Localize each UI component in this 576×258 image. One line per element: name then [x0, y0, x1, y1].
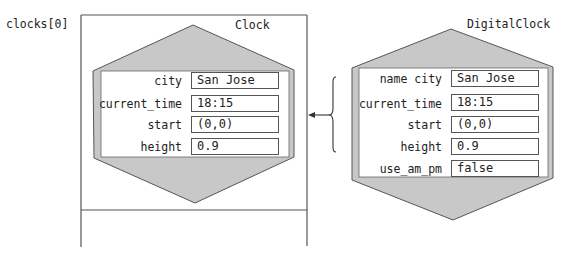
clock-class-name: Clock: [235, 18, 270, 32]
digitalclock-class-name: DigitalClock: [467, 17, 550, 31]
field-value: 0.9: [451, 138, 539, 155]
field-name: current_time: [359, 97, 442, 111]
field-value: 0.9: [191, 138, 279, 155]
field-name: height: [400, 140, 442, 154]
field-name: height: [140, 140, 182, 154]
field-name: name city: [380, 72, 442, 86]
field-value: 18:15: [191, 95, 279, 112]
brace-icon: [330, 77, 336, 152]
field-value: San Jose: [191, 72, 279, 89]
variable-label: clocks[0]: [6, 17, 68, 31]
field-name: current_time: [99, 97, 182, 111]
field-value: San Jose: [451, 70, 539, 87]
field-name: start: [147, 118, 182, 132]
field-value: 18:15: [451, 94, 539, 111]
field-name: use_am_pm: [380, 162, 442, 176]
field-name: city: [154, 74, 182, 88]
arrow-icon: [308, 112, 330, 118]
field-value: (0,0): [191, 116, 279, 133]
field-value: (0,0): [451, 116, 539, 133]
field-name: start: [407, 118, 442, 132]
field-value: false: [451, 160, 539, 177]
